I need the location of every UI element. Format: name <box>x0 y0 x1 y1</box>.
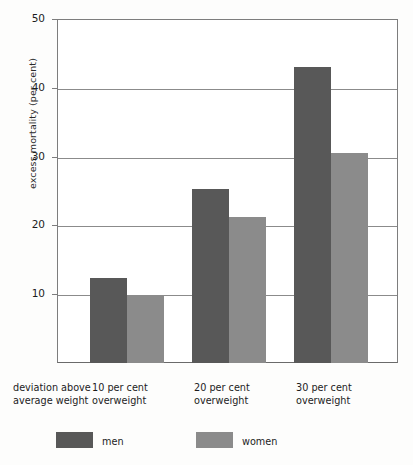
category-label-line2: overweight <box>194 395 248 406</box>
x-axis-category-label-3: 30 per centoverweight <box>296 382 352 407</box>
bar-men-3 <box>294 67 331 363</box>
bar-women-3 <box>331 153 368 363</box>
category-label-line1: 10 per cent <box>92 382 148 393</box>
x-axis-corner-label-line1: deviation above <box>13 382 91 393</box>
category-label-line2: overweight <box>92 395 146 406</box>
x-axis-category-label-1: 10 per centoverweight <box>92 382 148 407</box>
y-axis-tick-mark <box>52 88 57 89</box>
y-axis-tick-label: 30 <box>15 150 45 162</box>
y-axis-tick-label: 20 <box>15 218 45 230</box>
bar-women-2 <box>229 217 266 363</box>
bar-men-2 <box>192 189 229 363</box>
y-axis-tick-mark <box>52 294 57 295</box>
bar-chart: excess mortality (per cent) 1020304050 1… <box>0 0 413 465</box>
y-axis-tick-label: 40 <box>15 81 45 93</box>
y-axis-tick-mark <box>52 157 57 158</box>
x-axis-corner-label: deviation aboveaverage weight <box>13 382 91 407</box>
legend-label-men: men <box>102 436 124 447</box>
legend-swatch-men <box>56 432 93 448</box>
category-label-line1: 30 per cent <box>296 382 352 393</box>
y-axis-title: excess mortality (per cent) <box>27 34 38 214</box>
x-axis-corner-label-line2: average weight <box>13 395 88 406</box>
legend-swatch-women <box>196 432 233 448</box>
legend-label-women: women <box>242 436 277 447</box>
y-axis-tick-label: 50 <box>15 12 45 24</box>
y-axis-tick-label: 10 <box>15 287 45 299</box>
y-axis-tick-mark <box>52 19 57 20</box>
gridline <box>58 89 397 90</box>
category-label-line1: 20 per cent <box>194 382 250 393</box>
category-label-line2: overweight <box>296 395 350 406</box>
bar-women-1 <box>127 296 164 363</box>
x-axis-category-label-2: 20 per centoverweight <box>194 382 250 407</box>
y-axis-tick-mark <box>52 225 57 226</box>
bar-men-1 <box>90 278 127 363</box>
